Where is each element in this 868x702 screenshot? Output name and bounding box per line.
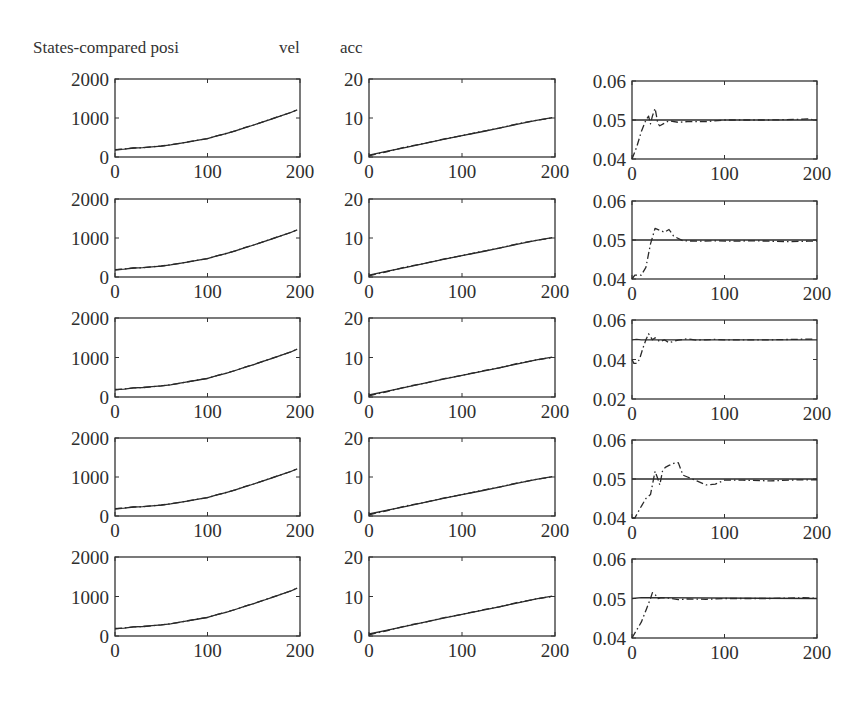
estimate-line bbox=[632, 463, 817, 518]
subplot-vel-row4: 010020001020 bbox=[344, 428, 569, 541]
estimate-line bbox=[115, 469, 297, 509]
y-tick-label: 10 bbox=[344, 467, 363, 488]
subplot-acc-row3: 01002000.020.040.06 bbox=[593, 310, 832, 424]
subplot-vel-row2: 010020001020 bbox=[344, 189, 569, 302]
x-tick-label: 200 bbox=[286, 401, 315, 422]
x-tick-label: 200 bbox=[286, 161, 315, 182]
subplot-acc-row5: 01002000.040.050.06 bbox=[593, 549, 832, 663]
y-tick-label: 0.05 bbox=[593, 230, 626, 251]
subplot-posi-row1: 0100200010002000 bbox=[71, 69, 314, 182]
y-tick-label: 0 bbox=[100, 147, 110, 168]
estimate-line bbox=[115, 230, 297, 270]
y-tick-label: 0.04 bbox=[593, 508, 627, 529]
y-tick-label: 0.05 bbox=[593, 589, 626, 610]
y-tick-label: 0 bbox=[100, 267, 110, 288]
x-tick-label: 100 bbox=[193, 401, 222, 422]
y-tick-label: 1000 bbox=[71, 587, 109, 608]
x-tick-label: 100 bbox=[710, 283, 739, 304]
x-tick-label: 100 bbox=[710, 522, 739, 543]
y-tick-label: 0.04 bbox=[593, 269, 627, 290]
subplot-vel-row5: 010020001020 bbox=[344, 547, 569, 661]
y-tick-label: 0 bbox=[354, 147, 364, 168]
x-tick-label: 0 bbox=[627, 403, 637, 424]
estimate-line bbox=[369, 358, 552, 396]
y-tick-label: 0 bbox=[100, 626, 110, 647]
y-tick-label: 0 bbox=[354, 626, 364, 647]
y-tick-label: 2000 bbox=[71, 308, 109, 329]
subplot-posi-row5: 0100200010002000 bbox=[71, 547, 314, 661]
x-tick-label: 0 bbox=[364, 161, 374, 182]
y-tick-label: 20 bbox=[344, 308, 363, 329]
estimate-line bbox=[369, 118, 552, 156]
x-tick-label: 0 bbox=[627, 642, 637, 663]
y-tick-label: 0.06 bbox=[593, 71, 626, 92]
true-line bbox=[115, 110, 297, 150]
x-tick-label: 0 bbox=[110, 401, 120, 422]
subplot-posi-row3: 0100200010002000 bbox=[71, 308, 314, 422]
subplot-posi-row4: 0100200010002000 bbox=[71, 428, 314, 541]
y-tick-label: 0.05 bbox=[593, 469, 626, 490]
y-tick-label: 0 bbox=[100, 387, 110, 408]
y-tick-label: 10 bbox=[344, 108, 363, 129]
y-tick-label: 0.06 bbox=[593, 430, 626, 451]
estimate-line bbox=[369, 238, 552, 276]
subplot-acc-row1: 01002000.040.050.06 bbox=[593, 71, 832, 184]
x-tick-label: 0 bbox=[364, 401, 374, 422]
x-tick-label: 200 bbox=[803, 283, 832, 304]
x-tick-label: 0 bbox=[110, 161, 120, 182]
x-tick-label: 100 bbox=[448, 401, 477, 422]
y-tick-label: 0.04 bbox=[593, 350, 627, 371]
x-tick-label: 100 bbox=[448, 281, 477, 302]
true-line bbox=[115, 230, 297, 270]
y-tick-label: 2000 bbox=[71, 428, 109, 449]
estimate-line bbox=[369, 477, 552, 515]
estimate-line bbox=[369, 597, 552, 635]
x-tick-label: 0 bbox=[110, 640, 120, 661]
x-tick-label: 200 bbox=[541, 161, 570, 182]
y-tick-label: 20 bbox=[344, 189, 363, 210]
y-tick-label: 10 bbox=[344, 348, 363, 369]
y-tick-label: 20 bbox=[344, 428, 363, 449]
x-tick-label: 0 bbox=[364, 281, 374, 302]
x-tick-label: 200 bbox=[286, 281, 315, 302]
x-tick-label: 0 bbox=[364, 640, 374, 661]
x-tick-label: 100 bbox=[448, 640, 477, 661]
y-tick-label: 10 bbox=[344, 587, 363, 608]
x-tick-label: 100 bbox=[193, 640, 222, 661]
x-tick-label: 200 bbox=[541, 640, 570, 661]
x-tick-label: 100 bbox=[448, 520, 477, 541]
true-line bbox=[115, 588, 297, 628]
x-tick-label: 0 bbox=[627, 283, 637, 304]
y-tick-label: 1000 bbox=[71, 228, 109, 249]
estimate-line bbox=[115, 588, 297, 629]
x-tick-label: 200 bbox=[803, 642, 832, 663]
subplot-grid: 010020001000200001002000102001002000.040… bbox=[0, 0, 868, 702]
estimate-line bbox=[632, 593, 817, 638]
y-tick-label: 20 bbox=[344, 547, 363, 568]
y-tick-label: 0.06 bbox=[593, 191, 626, 212]
x-tick-label: 100 bbox=[193, 161, 222, 182]
estimate-line bbox=[632, 108, 817, 159]
x-tick-label: 100 bbox=[710, 403, 739, 424]
x-tick-label: 0 bbox=[627, 163, 637, 184]
x-tick-label: 200 bbox=[541, 401, 570, 422]
y-tick-label: 0 bbox=[354, 267, 364, 288]
true-line bbox=[115, 349, 297, 389]
y-tick-label: 0.05 bbox=[593, 110, 626, 131]
x-tick-label: 0 bbox=[627, 522, 637, 543]
x-tick-label: 0 bbox=[110, 281, 120, 302]
y-tick-label: 2000 bbox=[71, 69, 109, 90]
y-tick-label: 0.02 bbox=[593, 389, 626, 410]
x-tick-label: 100 bbox=[710, 642, 739, 663]
x-tick-label: 200 bbox=[286, 520, 315, 541]
x-tick-label: 200 bbox=[803, 403, 832, 424]
estimate-line bbox=[115, 349, 297, 390]
subplot-acc-row4: 01002000.040.050.06 bbox=[593, 430, 832, 543]
y-tick-label: 0.04 bbox=[593, 149, 627, 170]
true-line bbox=[115, 469, 297, 509]
x-tick-label: 0 bbox=[110, 520, 120, 541]
x-tick-label: 100 bbox=[448, 161, 477, 182]
estimate-line bbox=[115, 110, 297, 150]
subplot-vel-row1: 010020001020 bbox=[344, 69, 569, 182]
y-tick-label: 0 bbox=[354, 387, 364, 408]
